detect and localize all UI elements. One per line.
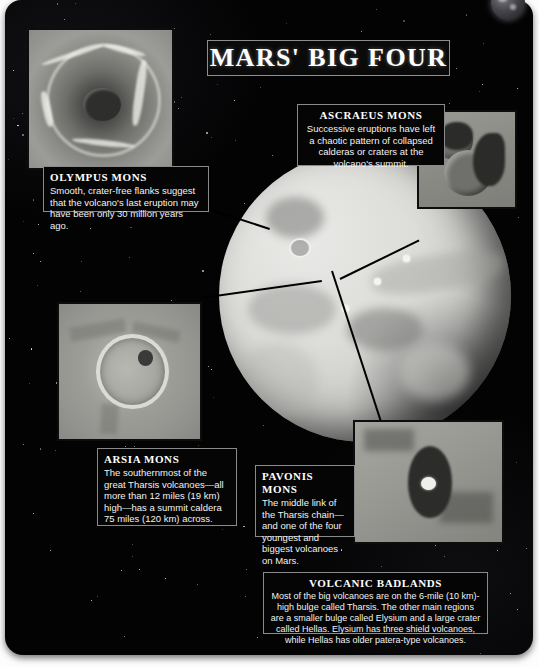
star: [132, 544, 133, 545]
ascraeus-collapsed-crater: [440, 122, 473, 151]
caption-pavonis-body: The middle link of the Tharsis chain—and…: [262, 497, 348, 566]
star: [435, 545, 436, 546]
star: [33, 513, 34, 514]
star: [40, 261, 41, 262]
caption-arsia: ARSIA MONS The southernmost of the great…: [97, 448, 237, 526]
page-title: MARS' BIG FOUR: [207, 40, 450, 76]
star: [456, 68, 457, 69]
caption-ascraeus-heading: ASCRAEUS MONS: [304, 109, 438, 122]
star: [217, 84, 218, 85]
olympus-caldera: [83, 88, 120, 121]
star: [234, 100, 235, 101]
star: [9, 338, 10, 339]
star: [55, 450, 56, 451]
star: [75, 3, 76, 4]
ascraeus-collapsed-crater: [473, 133, 506, 186]
star: [466, 14, 468, 16]
star: [245, 596, 246, 597]
star: [50, 550, 51, 551]
caption-badlands-heading: VOLCANIC BADLANDS: [270, 577, 481, 590]
star: [272, 155, 273, 156]
star: [121, 570, 122, 571]
star: [81, 261, 82, 262]
ascraeus-mons-marker: [403, 255, 410, 262]
caption-olympus: OLYMPUS MONS Smooth, crater-free flanks …: [43, 166, 209, 212]
star: [483, 43, 484, 44]
arsia-lava-flow: [100, 403, 119, 434]
star: [206, 132, 208, 134]
albedo-feature: [237, 343, 319, 419]
sphere-highlight: [498, 0, 507, 2]
star: [211, 137, 212, 138]
arsia-mons-photo: [57, 302, 202, 441]
arsia-caldera-rim: [96, 334, 169, 410]
albedo-feature: [248, 284, 336, 334]
pavonis-mons-photo: [353, 420, 504, 544]
star: [132, 556, 133, 557]
star: [482, 84, 483, 85]
caption-ascraeus-body: Successive eruptions have left a chaotic…: [304, 123, 438, 169]
star: [37, 285, 38, 286]
star: [97, 596, 98, 597]
albedo-feature: [347, 308, 423, 352]
caption-olympus-heading: OLYMPUS MONS: [50, 171, 202, 184]
caption-pavonis: PAVONIS MONS The middle link of the Thar…: [255, 465, 355, 537]
star: [124, 636, 125, 637]
caption-volcanic-badlands: VOLCANIC BADLANDS Most of the big volcan…: [263, 572, 488, 634]
star: [479, 91, 480, 92]
star: [29, 383, 30, 384]
star: [208, 366, 209, 367]
olympus-mons-photo: [27, 28, 174, 170]
albedo-feature: [400, 343, 470, 401]
star: [510, 593, 511, 594]
star: [33, 253, 34, 254]
star: [38, 224, 39, 225]
olympus-mons-marker: [289, 238, 311, 258]
caption-pavonis-heading: PAVONIS MONS: [262, 470, 348, 496]
star: [243, 526, 245, 528]
star: [31, 348, 33, 350]
star: [197, 584, 198, 585]
caption-arsia-heading: ARSIA MONS: [104, 453, 230, 466]
star: [235, 140, 236, 141]
caption-arsia-body: The southernmost of the great Tharsis vo…: [104, 467, 230, 525]
star: [222, 529, 223, 530]
star: [139, 569, 140, 570]
star: [449, 103, 450, 104]
star: [40, 448, 42, 450]
caption-badlands-body: Most of the big volcanoes are on the 6-m…: [270, 591, 481, 646]
pavonis-terrain: [364, 429, 414, 451]
star: [171, 300, 172, 301]
star: [286, 23, 287, 24]
albedo-feature: [266, 197, 324, 238]
sphere-highlight: [510, 4, 517, 10]
poster-panel: MARS' BIG FOUR: [5, 0, 533, 655]
star: [361, 31, 362, 32]
star: [91, 600, 92, 601]
star: [23, 444, 24, 445]
star: [125, 446, 126, 447]
page-title-text: MARS' BIG FOUR: [210, 43, 448, 73]
star: [246, 569, 247, 570]
star: [213, 397, 214, 398]
star: [80, 291, 81, 292]
star: [64, 19, 65, 20]
star: [526, 548, 527, 549]
star: [129, 257, 130, 258]
star: [376, 9, 377, 10]
star: [23, 221, 24, 222]
star: [198, 445, 199, 446]
star: [211, 369, 213, 371]
star: [518, 217, 519, 218]
star: [257, 637, 258, 638]
caption-ascraeus: ASCRAEUS MONS Successive eruptions have …: [297, 104, 445, 166]
star: [403, 20, 405, 22]
star: [517, 88, 518, 89]
star: [202, 270, 204, 272]
caption-olympus-body: Smooth, crater-free flanks suggest that …: [50, 185, 202, 231]
star: [165, 578, 166, 579]
